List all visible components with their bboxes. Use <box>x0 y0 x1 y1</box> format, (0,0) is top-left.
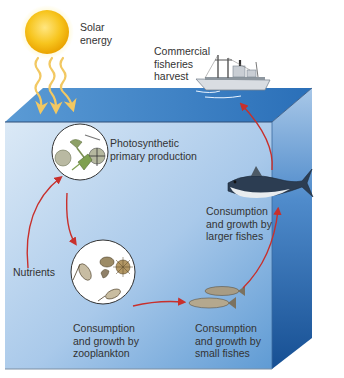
photosynthetic-label: Photosynthetic primary production <box>110 137 197 162</box>
nutrients-label: Nutrients <box>13 266 55 279</box>
larger-fishes-label: Consumption and growth by larger fishes <box>206 205 272 243</box>
sun-icon <box>20 5 74 59</box>
zooplankton-label: Consumption and growth by zooplankton <box>73 322 139 360</box>
small-fishes-label: Consumption and growth by small fishes <box>195 322 261 360</box>
commercial-harvest-label: Commercial fisheries harvest <box>154 45 210 83</box>
marine-food-chain-diagram: Solar energy Commercial fisheries harves… <box>0 0 344 378</box>
solar-energy-label: Solar energy <box>80 21 112 46</box>
phytoplankton-icon <box>52 124 108 180</box>
zooplankton-icon <box>71 240 135 304</box>
ocean-side-face <box>272 88 312 369</box>
